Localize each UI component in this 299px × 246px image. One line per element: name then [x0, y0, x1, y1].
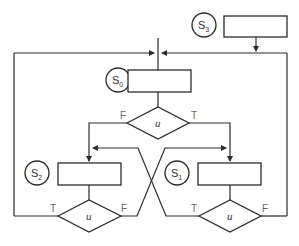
state-s2: S2 — [25, 161, 121, 185]
decision-bottom-left: u T F — [50, 200, 127, 232]
decision-top-false: F — [120, 110, 126, 121]
decision-bottom-right-label: u — [227, 210, 233, 222]
state-s3-box — [224, 16, 287, 37]
decision-top: u F T — [120, 107, 197, 139]
decision-bottom-right-true: T — [191, 203, 197, 214]
decision-bottom-left-true: T — [50, 203, 56, 214]
state-flow-diagram: S3 S0 u F T S2 S1 u T F u T F — [0, 0, 299, 246]
decision-bottom-left-false: F — [121, 203, 127, 214]
state-s0: S0 — [106, 68, 191, 92]
decision-top-true: T — [191, 110, 197, 121]
state-s1: S1 — [165, 161, 261, 185]
decision-top-label: u — [155, 117, 161, 129]
state-s3: S3 — [192, 13, 287, 37]
decision-bottom-right: u T F — [191, 200, 268, 232]
decision-bottom-left-label: u — [86, 210, 92, 222]
state-s2-box — [58, 163, 121, 185]
state-s0-box — [128, 70, 191, 92]
decision-bottom-right-false: F — [262, 203, 268, 214]
state-s1-box — [198, 163, 261, 185]
